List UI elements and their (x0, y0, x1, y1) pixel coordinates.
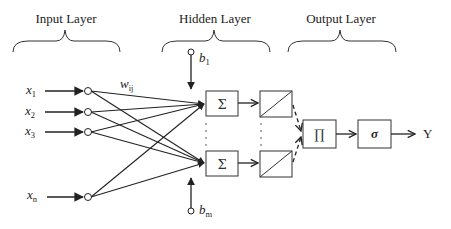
output-layer-brace (288, 30, 396, 52)
sum-symbol-m: Σ (217, 157, 226, 172)
weight-edge (91, 112, 204, 163)
linear-activation-box-1 (260, 91, 292, 117)
weight-edge (91, 163, 204, 197)
dashed-arrow-1 (293, 105, 301, 131)
sum-symbol-1: Σ (217, 97, 226, 112)
weight-edge (91, 132, 204, 163)
hidden-layer-title: Hidden Layer (179, 11, 252, 26)
bias-label-1: b1 (199, 50, 210, 67)
input-label-xn: xn (26, 187, 38, 204)
input-layer-brace (13, 30, 120, 52)
dashed-arrow-m (293, 137, 301, 162)
hidden-layer-brace (162, 30, 270, 52)
input-label-x3: x3 (24, 123, 35, 140)
bias-node-m (188, 208, 194, 214)
input-node-n (85, 194, 92, 201)
sigmoid-symbol: σ (371, 126, 379, 141)
input-label-x2: x2 (24, 103, 35, 120)
neural-network-diagram: Input Layer Hidden Layer Output Layer x1… (0, 0, 451, 229)
weight-label: wij (120, 76, 133, 93)
input-node-3 (85, 129, 92, 136)
bias-label-m: bm (199, 202, 213, 219)
input-node-2 (85, 109, 92, 116)
bias-node-1 (188, 49, 194, 55)
ellipsis-dots (205, 123, 262, 146)
input-label-x1: x1 (25, 82, 36, 99)
input-node-1 (85, 88, 92, 95)
output-label: Y (423, 126, 433, 141)
linear-activation-box-m (260, 151, 292, 177)
output-layer-title: Output Layer (306, 11, 376, 26)
input-layer-title: Input Layer (35, 11, 97, 26)
product-symbol: ∏ (314, 127, 324, 142)
